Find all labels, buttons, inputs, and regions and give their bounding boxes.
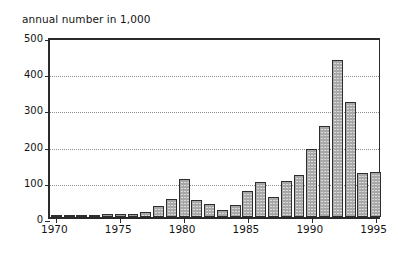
y-tick [45,40,50,41]
bar-1977 [140,212,151,217]
x-tick-label: 1980 [169,223,196,235]
chart-title: annual number in 1,000 [22,13,151,25]
bar-1976 [128,214,139,217]
bar-1979 [166,199,177,217]
y-tick [45,149,50,150]
y-tick [45,76,50,77]
bar-1987 [268,197,279,217]
y-tick [45,221,50,222]
y-tick-label: 100 [24,177,43,188]
y-tick-label: 400 [24,69,43,80]
bar-1971 [64,215,75,218]
bar-1980 [179,179,190,217]
bar-1986 [255,182,266,217]
bar-1978 [153,206,164,217]
bar-1992 [332,60,343,217]
bar-chart: annual number in 1,000 0100200300400500 … [0,0,398,258]
bar-1972 [76,215,87,218]
y-axis-labels: 0100200300400500 [12,38,43,219]
bar-1981 [191,200,202,217]
bars-group [50,40,379,217]
x-tick-label: 1985 [233,223,260,235]
bar-1994 [357,173,368,217]
bar-1990 [306,149,317,217]
bar-1993 [345,102,356,217]
bar-1988 [281,181,292,217]
x-tick-label: 1990 [296,223,323,235]
x-axis-labels: 197019751980198519901995 [48,223,380,241]
bar-1985 [242,191,253,217]
x-tick-label: 1975 [105,223,132,235]
bar-1984 [230,205,241,217]
y-tick-label: 500 [24,33,43,44]
y-tick [45,112,50,113]
bar-1983 [217,210,228,217]
bar-1974 [102,214,113,217]
bar-1989 [294,175,305,217]
y-tick [45,185,50,186]
bar-1995 [370,172,381,217]
plot-area [48,38,380,219]
bar-1973 [89,215,100,218]
x-tick-label: 1995 [360,223,387,235]
y-tick-label: 200 [24,141,43,152]
bar-1982 [204,204,215,217]
x-tick-label: 1970 [41,223,68,235]
bar-1991 [319,126,330,217]
y-tick-label: 300 [24,105,43,116]
